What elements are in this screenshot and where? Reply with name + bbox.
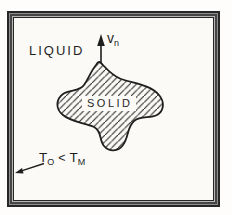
normal-velocity-label: vn [107,31,119,45]
figure-frame: LIQUID vn SOLID TO<TM [7,11,220,207]
temperature-t0-symbol: T [39,150,47,165]
frame-mid-band: LIQUID vn SOLID TO<TM [10,14,217,204]
temperature-t0-subscript: O [47,157,54,167]
solid-region-label: SOLID [82,96,136,111]
liquid-region-label: LIQUID [29,44,84,57]
figure: LIQUID vn SOLID TO<TM [0,0,232,215]
velocity-symbol: v [107,30,114,46]
temperature-condition-label: TO<TM [39,151,85,165]
figure-canvas: LIQUID vn SOLID TO<TM [13,17,214,201]
normal-velocity-arrow [97,34,105,63]
velocity-subscript: n [114,38,119,48]
temperature-tm-symbol: T [70,150,78,165]
less-than-operator: < [58,151,65,165]
temperature-tm-subscript: M [78,157,86,167]
